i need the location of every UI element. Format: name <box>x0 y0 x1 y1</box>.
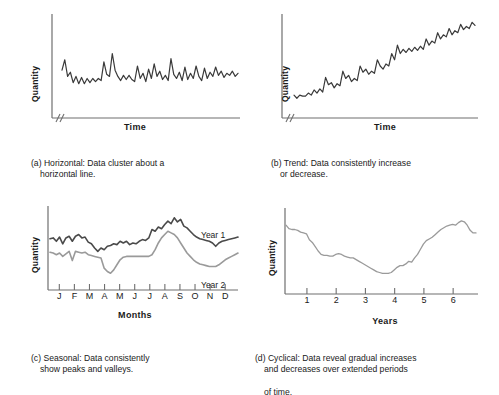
chart-d-tick-label: 4 <box>389 295 401 305</box>
chart-d-tick-label: 1 <box>301 295 313 305</box>
chart-d-ylabel: Quantity <box>267 240 277 276</box>
chart-c-tick-label: O <box>189 291 201 301</box>
time-series-patterns-figure: Quantity Time (a) Horizontal: Data clust… <box>0 0 499 395</box>
chart-c-xlabel: Months <box>95 310 175 320</box>
panel-cyclical: Quantity Years (d) Cyclical: Data reveal… <box>250 198 499 395</box>
chart-c-tick-label: J <box>53 291 65 301</box>
chart-c-tick-label: N <box>204 291 216 301</box>
panel-trend: Quantity Time (b) Trend: Data consistent… <box>250 0 499 197</box>
chart-c-tick-label: A <box>159 291 171 301</box>
chart-c-caption-line1: (c) Seasonal: Data consistently <box>31 353 149 363</box>
chart-c-tick-label: S <box>174 291 186 301</box>
chart-c-series-label-year2: Year 2 <box>201 280 225 290</box>
chart-c-ylabel: Quantity <box>30 237 40 273</box>
panel-seasonal: Quantity Months Year 1 Year 2 (c) Season… <box>0 198 249 395</box>
chart-d-tick-label: 5 <box>418 295 430 305</box>
chart-d-caption: (d) Cyclical: Data reveal gradual increa… <box>255 341 490 395</box>
panel-horizontal: Quantity Time (a) Horizontal: Data clust… <box>0 0 249 197</box>
chart-d-caption-line1: (d) Cyclical: Data reveal gradual increa… <box>255 353 416 363</box>
chart-c-caption: (c) Seasonal: Data consistently show pea… <box>31 341 231 387</box>
chart-c-tick-label: M <box>83 291 95 301</box>
chart-c-tick-label: A <box>99 291 111 301</box>
chart-a-caption: (a) Horizontal: Data cluster about a hor… <box>31 146 231 192</box>
chart-d-caption-line2: and decreases over extended periods <box>255 364 490 376</box>
chart-c-tick-label: J <box>144 291 156 301</box>
chart-c-tick-label: M <box>114 291 126 301</box>
chart-c-tick-label: J <box>129 291 141 301</box>
chart-d-plot <box>250 198 499 318</box>
chart-c-tick-label: D <box>219 291 231 301</box>
chart-d-tick-label: 2 <box>330 295 342 305</box>
chart-d-tick-label: 3 <box>359 295 371 305</box>
chart-c-series-label-year1: Year 1 <box>201 230 225 240</box>
chart-b-caption-line2: or decrease. <box>271 169 486 181</box>
chart-c-caption-line2: show peaks and valleys. <box>31 364 231 376</box>
chart-a-ylabel: Quantity <box>30 66 40 102</box>
chart-a-caption-line1: (a) Horizontal: Data cluster about a <box>31 158 164 168</box>
chart-d-xlabel: Years <box>345 316 425 326</box>
chart-c-tick-label: F <box>68 291 80 301</box>
chart-a-caption-line2: horizontal line. <box>31 169 231 181</box>
chart-a-xlabel: Time <box>95 122 175 132</box>
chart-b-caption: (b) Trend: Data consistently increase or… <box>271 146 486 192</box>
chart-b-ylabel: Quantity <box>280 66 290 102</box>
chart-d-tick-label: 6 <box>447 295 459 305</box>
chart-d-caption-line3: of time. <box>255 387 490 395</box>
chart-b-xlabel: Time <box>345 122 425 132</box>
chart-b-caption-line1: (b) Trend: Data consistently increase <box>271 158 411 168</box>
